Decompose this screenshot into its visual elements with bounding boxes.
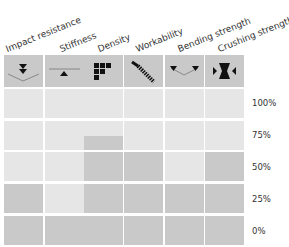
impact-icon: [4, 55, 43, 87]
cell-impact-75: [4, 121, 43, 150]
cell-stiffness-0: [45, 216, 84, 245]
cell-impact-100: [4, 89, 43, 118]
cell-crushing-75: [205, 121, 244, 150]
cell-bending-100: [165, 89, 204, 118]
cell-density-75: [84, 121, 123, 150]
column-label-workability: Workability: [134, 26, 184, 54]
cell-crushing-50: [205, 152, 244, 181]
bending-icon: [165, 55, 204, 87]
stiffness-icon: [45, 55, 84, 87]
cell-workability-75: [124, 121, 163, 150]
row-label-75: 75%: [252, 130, 271, 140]
density-icon: [84, 55, 123, 87]
cell-bending-0: [165, 216, 204, 245]
cell-workability-25: [124, 184, 163, 213]
cell-impact-50: [4, 152, 43, 181]
column-label-density: Density: [96, 32, 131, 54]
workability-icon: [124, 55, 163, 87]
row-label-0: 0%: [252, 226, 266, 236]
cell-workability-50: [124, 152, 163, 181]
cell-stiffness-75: [45, 121, 84, 150]
partial-fill: [84, 136, 123, 150]
cell-stiffness-25: [45, 184, 84, 213]
cell-crushing-25: [205, 184, 244, 213]
crushing-icon: [205, 55, 244, 87]
cell-stiffness-100: [45, 89, 84, 118]
cell-density-0: [84, 216, 123, 245]
cell-bending-75: [165, 121, 204, 150]
cell-density-25: [84, 184, 123, 213]
cell-density-100: [84, 89, 123, 118]
row-label-100: 100%: [252, 98, 276, 108]
cell-bending-25: [165, 184, 204, 213]
cell-stiffness-50: [45, 152, 84, 181]
cell-crushing-0: [205, 216, 244, 245]
row-label-25: 25%: [252, 194, 271, 204]
cell-crushing-100: [205, 89, 244, 118]
cell-density-50: [84, 152, 123, 181]
cell-impact-25: [4, 184, 43, 213]
cell-workability-0: [124, 216, 163, 245]
cell-bending-50: [165, 152, 204, 181]
cell-impact-0: [4, 216, 43, 245]
row-label-50: 50%: [252, 162, 271, 172]
column-label-stiffness: Stiffness: [58, 30, 98, 54]
cell-workability-100: [124, 89, 163, 118]
